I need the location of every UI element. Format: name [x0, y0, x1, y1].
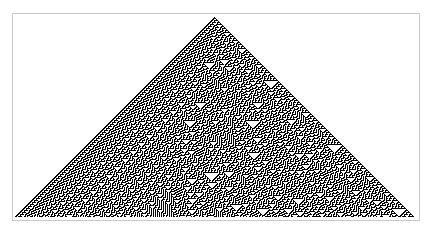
cellular-automaton-pattern [0, 0, 431, 234]
